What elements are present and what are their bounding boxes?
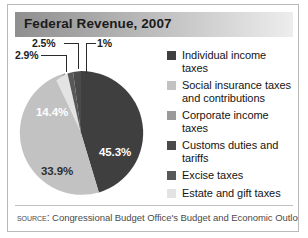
chart-title-bar: Federal Revenue, 2007 — [15, 12, 293, 37]
source-text: Congressional Budget Office's Budget and… — [52, 212, 299, 223]
pie-label-corporate-income-taxes: 14.4% — [36, 106, 68, 118]
legend-label-social: Social insurance taxes and contributions — [182, 79, 293, 104]
chart-legend: Individual income taxes Social insurance… — [167, 49, 293, 204]
legend-swatch-icon-excise — [167, 171, 176, 180]
pie-callout-customs-duties: 1% — [97, 37, 112, 49]
legend-item-excise-taxes: Excise taxes — [167, 169, 293, 182]
footer-divider — [15, 205, 293, 206]
pie-label-individual-income-taxes: 45.3% — [99, 146, 131, 158]
legend-item-estate-and-gift-taxes: Estate and gift taxes — [167, 187, 293, 200]
legend-swatch-icon-estate — [167, 189, 176, 198]
leader-line-customs — [86, 43, 96, 44]
leader-line-excise-drop — [78, 43, 79, 69]
chart-body: 45.3% 33.9% 14.4% 2.9% 2.5% 1% Individua… — [15, 39, 293, 204]
legend-swatch-icon-social — [167, 81, 176, 90]
pie-callout-excise-taxes: 2.5% — [32, 37, 56, 49]
legend-item-individual-income-taxes: Individual income taxes — [167, 49, 293, 74]
legend-swatch-icon-corporate — [167, 111, 176, 120]
legend-item-social-insurance: Social insurance taxes and contributions — [167, 79, 293, 104]
pie-callout-estate-and-gift-taxes: 2.9% — [15, 49, 39, 61]
source-label: SOURCE: — [17, 211, 50, 223]
legend-label-excise: Excise taxes — [182, 169, 243, 182]
legend-swatch-icon-customs — [167, 141, 176, 150]
pie-svg — [15, 61, 155, 203]
leader-line-estate — [41, 55, 67, 56]
legend-swatch-icon-individual — [167, 51, 176, 60]
legend-label-estate: Estate and gift taxes — [182, 187, 281, 200]
legend-item-corporate-income-taxes: Corporate income taxes — [167, 109, 293, 134]
legend-label-individual: Individual income taxes — [182, 49, 293, 74]
legend-item-customs-duties: Customs duties and tariffs — [167, 139, 293, 164]
leader-line-estate-drop — [66, 55, 67, 72]
leader-line-excise — [64, 43, 79, 44]
page-title: Federal Revenue, 2007 — [24, 16, 172, 31]
source-note: SOURCE: Congressional Budget Office's Bu… — [17, 211, 299, 223]
legend-label-customs: Customs duties and tariffs — [182, 139, 293, 164]
pie-chart: 45.3% 33.9% 14.4% — [15, 61, 155, 203]
leader-line-customs-drop — [86, 43, 87, 73]
legend-label-corporate: Corporate income taxes — [182, 109, 293, 134]
pie-label-social-insurance: 33.9% — [41, 165, 73, 177]
chart-figure: Federal Revenue, 2007 45.3% 33.9% 14. — [7, 4, 299, 232]
